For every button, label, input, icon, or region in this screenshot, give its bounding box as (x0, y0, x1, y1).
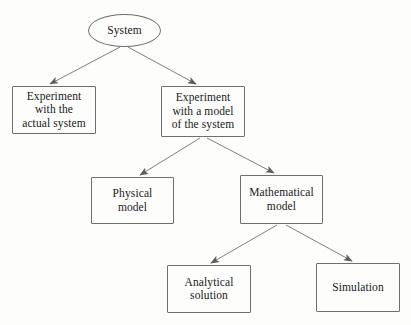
node-analytical-solution[interactable]: Analytical solution (167, 265, 251, 313)
node-system-label: System (107, 24, 141, 38)
edge-mathematical-model-to-simulation (286, 225, 352, 261)
node-mathematical-model[interactable]: Mathematical model (240, 175, 323, 224)
edge-system-to-experiment-model (128, 47, 196, 84)
edge-mathematical-model-to-analytical-solution (211, 225, 277, 263)
node-physical-model-label: Physical model (113, 187, 153, 214)
node-simulation-label: Simulation (332, 281, 383, 295)
node-simulation[interactable]: Simulation (316, 263, 400, 312)
edge-experiment-model-to-physical-model (140, 138, 200, 175)
edge-experiment-model-to-mathematical-model (207, 138, 274, 173)
node-experiment-model-label: Experiment with a model of the system (172, 91, 235, 132)
node-analytical-solution-label: Analytical solution (185, 276, 234, 303)
edge-group (50, 47, 352, 263)
node-experiment-actual-label: Experiment with the actual system (22, 90, 86, 131)
node-experiment-actual[interactable]: Experiment with the actual system (12, 86, 96, 134)
edge-system-to-experiment-actual (50, 47, 120, 84)
node-system[interactable]: System (88, 14, 161, 47)
node-experiment-model[interactable]: Experiment with a model of the system (161, 86, 245, 137)
node-mathematical-model-label: Mathematical model (249, 186, 313, 213)
diagram-canvas: System Experiment with the actual system… (0, 0, 411, 325)
node-physical-model[interactable]: Physical model (91, 177, 174, 224)
